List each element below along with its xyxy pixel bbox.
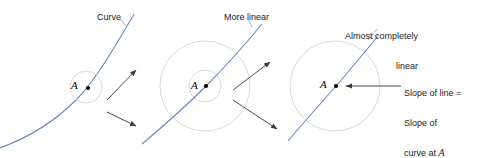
panel-2-label-more-linear: More linear	[224, 12, 269, 22]
panel-3-point-a-marker	[334, 84, 338, 88]
local-linearity-figure: Curve More linear Almost completely line…	[0, 0, 477, 158]
panel-2-group	[142, 18, 262, 144]
slope-annotation: Slope of line = Slope of curve at A	[404, 68, 461, 158]
panel-3-point-a-label: A	[320, 78, 327, 90]
zoom-arrows-2-3	[233, 62, 277, 129]
panel-1-group	[0, 14, 134, 150]
slope-annotation-line3-prefix: curve at	[404, 148, 439, 158]
slope-annotation-line3: curve at A	[404, 148, 461, 158]
panel-1-point-a-label: A	[71, 79, 78, 91]
slope-annotation-variable-a: A	[439, 147, 445, 158]
zoom-arrow-upper-left	[107, 70, 136, 100]
zoom-arrows-1-2	[107, 70, 136, 126]
panel-1-label-curve: Curve	[97, 12, 121, 22]
panel-1-point-a-marker	[86, 86, 90, 90]
slope-annotation-line2: Slope of	[404, 118, 461, 128]
panel-3-label-line1: Almost completely	[345, 31, 418, 41]
panel-2-point-a-marker	[204, 84, 208, 88]
panel-1-curve	[0, 14, 134, 150]
zoom-arrow-lower-left	[107, 112, 136, 126]
panel-2-point-a-label: A	[191, 79, 198, 91]
zoom-arrow-upper-right	[233, 62, 270, 90]
slope-annotation-line1: Slope of line =	[404, 88, 461, 98]
